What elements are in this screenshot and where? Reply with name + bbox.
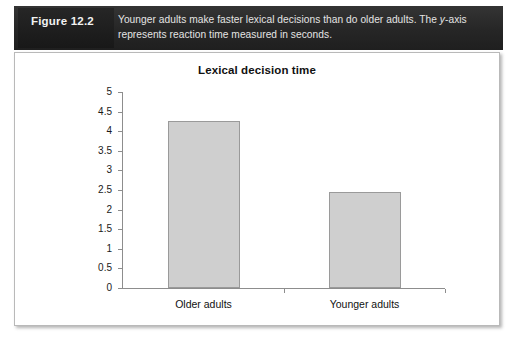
y-axis-tick-mark	[118, 170, 122, 171]
y-axis-tick-label: 4	[66, 126, 112, 136]
y-axis-tick-label: 1.5	[66, 224, 112, 234]
y-axis-tick-label: 4.5	[66, 107, 112, 117]
y-axis-tick-label: 2	[66, 205, 112, 215]
y-axis-tick-label: 1	[66, 244, 112, 254]
y-axis-tick-mark	[118, 92, 122, 93]
figure-root: Figure 12.2 Younger adults make faster l…	[0, 0, 515, 342]
y-axis-tick-mark	[118, 210, 122, 211]
bar	[329, 192, 401, 288]
y-axis-tick-label: 0	[66, 283, 112, 293]
y-axis-tick-label: 5	[66, 87, 112, 97]
y-axis-tick-mark	[118, 112, 122, 113]
figure-number-box	[18, 8, 114, 48]
plot-area: 00.511.522.533.544.55Older adultsYounger…	[15, 53, 501, 327]
y-axis-tick-mark	[118, 229, 122, 230]
y-axis-tick-mark	[118, 268, 122, 269]
x-axis-tick-mark	[445, 289, 446, 293]
y-axis-tick-label: 2.5	[66, 185, 112, 195]
bar	[168, 121, 240, 288]
caption-segment-1: Younger adults make faster lexical decis…	[118, 14, 440, 25]
x-axis-tick-mark	[284, 289, 285, 293]
y-axis-tick-label: 0.5	[66, 263, 112, 273]
y-axis-tick-mark	[118, 151, 122, 152]
x-axis-category-label: Younger adults	[284, 298, 445, 310]
y-axis-tick-label: 3	[66, 165, 112, 175]
y-axis-line	[122, 92, 123, 289]
y-axis-tick-mark	[118, 249, 122, 250]
y-axis-tick-mark	[118, 190, 122, 191]
y-axis-tick-mark	[118, 131, 122, 132]
figure-caption-text: Younger adults make faster lexical decis…	[118, 13, 496, 42]
figure-number-label: Figure 12.2	[31, 15, 94, 27]
x-axis-category-label: Older adults	[123, 298, 284, 310]
figure-caption-banner: Figure 12.2 Younger adults make faster l…	[14, 6, 503, 50]
y-axis-tick-label: 3.5	[66, 146, 112, 156]
y-axis-tick-mark	[118, 288, 122, 289]
chart-frame: Lexical decision time 00.511.522.533.544…	[14, 52, 500, 326]
